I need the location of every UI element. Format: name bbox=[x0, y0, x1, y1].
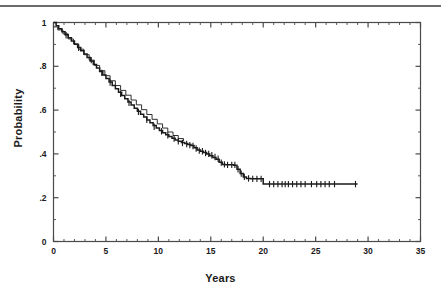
x-axis-tick-label: 10 bbox=[154, 246, 164, 256]
x-axis-tick-label: 25 bbox=[311, 246, 321, 256]
y-axis-tick-label: 1 bbox=[42, 18, 47, 28]
survival-curve-line bbox=[54, 27, 184, 141]
y-axis-tick-label: .4 bbox=[39, 149, 46, 159]
y-axis-tick-label: 0 bbox=[42, 237, 47, 247]
chart-canvas: 051015202530350.2.4.6.81 bbox=[0, 0, 441, 294]
survival-chart-figure: 051015202530350.2.4.6.81 Probability Yea… bbox=[0, 0, 441, 294]
y-axis-tick-label: .8 bbox=[39, 61, 46, 71]
plot-frame bbox=[54, 23, 421, 242]
x-axis-tick-label: 0 bbox=[51, 246, 56, 256]
x-axis-tick-label: 20 bbox=[258, 246, 268, 256]
y-axis-tick-label: .6 bbox=[39, 105, 46, 115]
x-axis-tick-label: 30 bbox=[363, 246, 373, 256]
x-axis-title: Years bbox=[0, 272, 441, 284]
survival-curve-line bbox=[54, 23, 358, 185]
y-axis-tick-label: .2 bbox=[39, 193, 46, 203]
x-axis-tick-label: 5 bbox=[104, 246, 109, 256]
x-axis-tick-label: 15 bbox=[206, 246, 216, 256]
x-axis-tick-label: 35 bbox=[416, 246, 426, 256]
y-axis-title: Probability bbox=[12, 73, 24, 163]
